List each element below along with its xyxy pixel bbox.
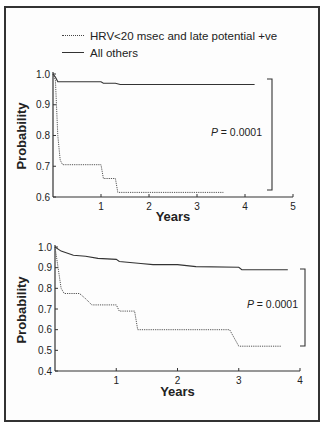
x-tick-label: 3 [236,375,242,386]
plots-canvas: 0.60.70.80.91.012345YearsProbabilityP = … [0,0,326,429]
x-axis-label: Years [160,384,195,399]
p-value-annotation: P = 0.0001 [247,298,298,310]
y-tick-label: 0.8 [36,130,50,141]
others-survival-curve [53,74,255,85]
y-tick-label: 1.0 [38,242,52,253]
y-tick-label: 0.9 [36,99,50,110]
hrv-survival-curve [55,247,282,346]
y-tick-label: 1.0 [36,69,50,80]
y-axis-label: Probability [14,276,29,344]
y-tick-label: 0.8 [38,283,52,294]
y-tick-label: 0.6 [38,324,52,335]
y-tick-label: 0.5 [38,345,52,356]
x-axis-label: Years [156,209,191,224]
x-tick-label: 1 [98,201,104,212]
y-tick-label: 0.4 [38,366,52,377]
y-tick-label: 0.6 [36,192,50,203]
p-value-annotation: P = 0.0001 [211,126,262,138]
significance-bracket [300,269,305,346]
y-tick-label: 0.9 [38,262,52,273]
x-tick-label: 5 [290,201,296,212]
x-tick-label: 3 [194,201,200,212]
others-survival-curve [55,247,288,270]
hrv-survival-curve [53,74,223,192]
x-tick-label: 4 [242,201,248,212]
significance-bracket [267,79,272,190]
x-tick-label: 2 [146,201,152,212]
x-tick-label: 4 [297,375,303,386]
y-axis-label: Probability [14,102,29,170]
y-tick-label: 0.7 [38,304,52,315]
x-tick-label: 1 [113,375,119,386]
y-tick-label: 0.7 [36,161,50,172]
